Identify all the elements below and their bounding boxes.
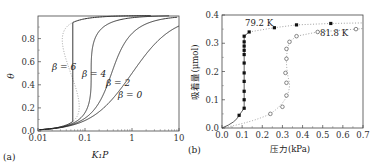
fit-81-8K (222, 29, 363, 128)
point-79-2K (243, 107, 246, 110)
point-79-2K (243, 90, 246, 93)
point-79-2K (243, 71, 246, 74)
point-79-2K (295, 23, 298, 26)
point-81-8K (354, 27, 358, 31)
point-79-2K (243, 61, 246, 64)
figure: 0.010.11100.00.20.40.60.8 (a) K₁P θ β = … (0, 0, 377, 166)
point-81-8K (285, 57, 289, 61)
y-tick-label: 0.3 (205, 38, 219, 48)
point-79-2K (243, 44, 246, 47)
panel-b-label: (b) (188, 145, 201, 155)
label-beta-2: β = 2 (105, 78, 130, 88)
x-tick-label: 1 (129, 133, 134, 143)
curve-β=2 (40, 17, 177, 130)
y-tick-label: 0.8 (21, 34, 35, 44)
panel-a-label: (a) (3, 152, 15, 162)
x-tick-label: 0.1 (235, 130, 249, 140)
x-tick-label: 0.3 (276, 130, 290, 140)
point-79-2K (243, 35, 246, 38)
y-tick-label: 0.6 (21, 57, 35, 67)
y-tick-label: 0.4 (205, 10, 219, 20)
label-79-2K: 79.2 K (245, 18, 274, 28)
x-tick-label: 0.6 (336, 130, 350, 140)
point-79-2K (248, 30, 251, 33)
point-79-2K (243, 80, 246, 83)
label-beta-6: β = 6 (51, 62, 76, 72)
y-tick-label: 0.0 (205, 123, 219, 133)
panel-b-ylabel: 吸着量(μmol) (190, 44, 200, 99)
panel-a-xlabel: K₁P (91, 150, 109, 160)
panel-a: 0.010.11100.00.20.40.60.8 (a) K₁P θ β = … (3, 16, 184, 162)
y-tick-label: 0.2 (205, 67, 219, 77)
point-79-2K (273, 26, 276, 29)
y-tick-label: 0.4 (21, 80, 35, 90)
panel-a-frame (38, 16, 179, 131)
point-79-2K (243, 98, 246, 101)
x-tick-label: 10 (174, 133, 185, 143)
point-81-8K (288, 40, 292, 44)
panel-a-ylabel: θ (6, 73, 16, 79)
point-79-2K (243, 49, 246, 52)
point-81-8K (285, 81, 289, 85)
point-81-8K (281, 105, 285, 109)
point-81-8K (284, 71, 288, 75)
point-81-8K (285, 94, 289, 98)
point-79-2K (243, 53, 246, 56)
x-tick-label: 0.5 (316, 130, 330, 140)
x-tick-label: 0.4 (296, 130, 310, 140)
label-beta-0: β = 0 (117, 90, 142, 100)
label-81-8K: 81.8 K (320, 28, 349, 38)
x-tick-label: 0.1 (78, 133, 92, 143)
point-81-8K (295, 34, 299, 38)
point-81-8K (285, 47, 289, 51)
x-tick-label: 0.7 (356, 130, 370, 140)
y-tick-label: 0.2 (21, 103, 35, 113)
y-tick-label: 0.0 (21, 126, 35, 136)
x-tick-label: 0.2 (256, 130, 270, 140)
point-81-8K (269, 112, 273, 116)
point-79-2K (238, 114, 241, 117)
panel-b-xlabel: 压力(kPa) (270, 144, 310, 154)
y-tick-label: 0.1 (205, 95, 219, 105)
panel-b: 0.00.10.20.30.40.50.60.70.00.10.20.30.4 … (188, 10, 370, 155)
point-79-2K (329, 22, 332, 25)
point-81-8K (316, 30, 320, 34)
point-79-2K (243, 40, 246, 43)
label-beta-4: β = 4 (81, 69, 106, 79)
